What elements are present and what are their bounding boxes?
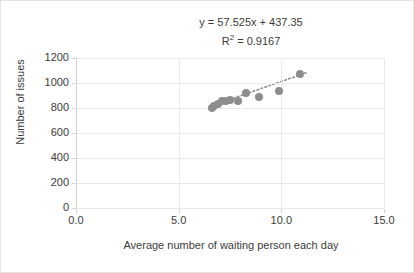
y-axis-tick-mark <box>72 83 76 84</box>
y-axis-tick-label: 1000 <box>25 77 69 88</box>
gridline-horizontal <box>76 108 384 109</box>
r-symbol: R <box>222 35 230 47</box>
trendline-annotation: y = 57.525x + 437.35 R2 = 0.9167 <box>151 15 351 49</box>
data-point <box>234 97 242 105</box>
y-axis-tick-mark <box>72 158 76 159</box>
y-axis-tick-label: 400 <box>25 152 69 163</box>
y-axis-tick-mark <box>72 133 76 134</box>
data-point <box>226 96 234 104</box>
x-axis-tick-label: 5.0 <box>156 214 202 226</box>
r-value: = 0.9167 <box>234 35 280 47</box>
x-axis-tick-label: 15.0 <box>361 214 407 226</box>
y-axis-tick-mark <box>72 183 76 184</box>
plot-area <box>76 58 384 208</box>
gridline-horizontal <box>76 158 384 159</box>
y-axis-tick-label: 600 <box>25 127 69 138</box>
gridline-horizontal <box>76 133 384 134</box>
y-axis-tick-label: 800 <box>25 102 69 113</box>
gridline-horizontal <box>76 83 384 84</box>
x-axis-tick-mark <box>76 209 77 213</box>
trendline-r-squared: R2 = 0.9167 <box>151 30 351 49</box>
y-axis-tick-label: 0 <box>25 202 69 213</box>
y-axis-tick-label: 1200 <box>25 52 69 63</box>
y-axis-tick-mark <box>72 108 76 109</box>
y-axis-tick-label: 200 <box>25 177 69 188</box>
gridline-vertical <box>281 58 282 208</box>
gridline-horizontal <box>76 208 384 209</box>
data-point <box>275 87 283 95</box>
gridline-vertical <box>179 58 180 208</box>
y-axis-tick-labels: 020040060080010001200 <box>23 1 69 273</box>
x-axis-tick-mark <box>179 209 180 213</box>
y-axis-title: Number of issues <box>14 37 26 167</box>
trendline-equation: y = 57.525x + 437.35 <box>151 15 351 30</box>
x-axis-tick-mark <box>281 209 282 213</box>
gridline-horizontal <box>76 58 384 59</box>
y-axis-tick-mark <box>72 58 76 59</box>
x-axis-tick-mark <box>384 209 385 213</box>
scatter-chart: y = 57.525x + 437.35 R2 = 0.9167 0200400… <box>0 0 414 273</box>
gridline-horizontal <box>76 183 384 184</box>
x-axis-title: Average number of waiting person each da… <box>61 239 401 251</box>
x-axis-tick-label: 10.0 <box>258 214 304 226</box>
gridline-vertical <box>384 58 385 208</box>
x-axis-tick-label: 0.0 <box>53 214 99 226</box>
